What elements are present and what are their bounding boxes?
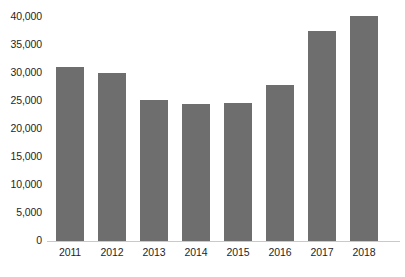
bar-2011	[56, 67, 84, 241]
x-axis-tick-2011: 2011	[49, 246, 91, 259]
x-axis-tick-2018: 2018	[343, 246, 385, 259]
x-axis-tick-2013: 2013	[133, 246, 175, 259]
y-axis-tick-30000: 30,000	[0, 67, 42, 78]
bar-2017	[308, 31, 336, 241]
bar-2014	[182, 104, 210, 241]
bar-2015	[224, 103, 252, 241]
y-axis-tick-0: 0	[0, 235, 42, 246]
bar-chart: 40,000 35,000 30,000 25,000 20,000 15,00…	[0, 0, 405, 277]
plot-area: 40,000 35,000 30,000 25,000 20,000 15,00…	[0, 0, 405, 241]
y-axis-tick-10000: 10,000	[0, 179, 42, 190]
x-axis-tick-2016: 2016	[259, 246, 301, 259]
x-axis-tick-2017: 2017	[301, 246, 343, 259]
x-axis-tick-2014: 2014	[175, 246, 217, 259]
bar-2018	[350, 16, 378, 241]
y-axis-tick-25000: 25,000	[0, 95, 42, 106]
y-axis-tick-20000: 20,000	[0, 123, 42, 134]
y-axis-tick-5000: 5,000	[0, 207, 42, 218]
y-axis-tick-40000: 40,000	[0, 11, 42, 22]
x-axis-labels: 2011 2012 2013 2014 2015 2016 2017 2018	[0, 246, 405, 264]
x-axis-line	[47, 241, 400, 242]
bar-2016	[266, 85, 294, 241]
y-axis-tick-15000: 15,000	[0, 151, 42, 162]
x-axis-tick-2015: 2015	[217, 246, 259, 259]
x-axis-tick-2012: 2012	[91, 246, 133, 259]
y-axis-tick-35000: 35,000	[0, 39, 42, 50]
bar-2012	[98, 73, 126, 241]
bar-2013	[140, 100, 168, 241]
